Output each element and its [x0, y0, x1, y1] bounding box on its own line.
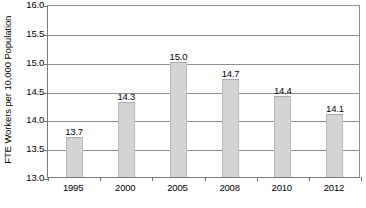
- x-axis-tick-label: 2012: [324, 183, 344, 193]
- x-axis-tick-label: 2000: [115, 183, 135, 193]
- y-axis-tick-label: 16.0: [14, 0, 44, 10]
- x-axis-tick-label: 1995: [63, 183, 83, 193]
- y-axis-tick-label: 14.0: [14, 116, 44, 126]
- y-axis-tick-label: 14.5: [14, 87, 44, 97]
- x-axis-tick-mark: [361, 177, 362, 181]
- y-axis-tick-label: 15.5: [14, 29, 44, 39]
- x-axis-tick-labels: 199520002005200820102012: [47, 0, 360, 208]
- x-axis-tick-label: 2010: [272, 183, 292, 193]
- y-axis-tick-labels: 13.013.514.014.515.015.516.0: [12, 0, 44, 208]
- y-axis-tick-label: 15.0: [14, 58, 44, 68]
- y-axis-tick-label: 13.5: [14, 144, 44, 154]
- bar-chart: FTE Workers per 10,000 Population 13.013…: [0, 0, 366, 208]
- x-axis-tick-label: 2008: [219, 183, 239, 193]
- x-axis-tick-label: 2005: [167, 183, 187, 193]
- y-axis-tick-label: 13.0: [14, 173, 44, 183]
